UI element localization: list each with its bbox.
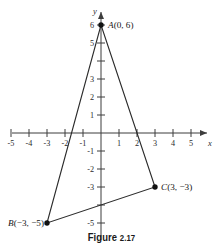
y-tick-label: 1 bbox=[90, 111, 94, 120]
x-tick-label: 3 bbox=[153, 139, 157, 148]
y-tick-label: 5 bbox=[90, 39, 94, 48]
figure-caption-label: Figure bbox=[88, 231, 117, 243]
point-a-dot bbox=[98, 22, 103, 27]
x-tick-label: -3 bbox=[44, 139, 51, 148]
figure-container: -5 -4 -3 -2 -1 1 2 3 4 5 6 5 3 2 1 -1 -2… bbox=[0, 0, 223, 251]
point-b-label: B(−3, −5) bbox=[8, 218, 44, 228]
point-b-dot bbox=[44, 220, 49, 225]
y-tick-label: 2 bbox=[90, 93, 94, 102]
point-c-label: C(3, −3) bbox=[161, 182, 192, 192]
x-tick-label: -5 bbox=[8, 139, 15, 148]
x-tick-labels: -5 -4 -3 -2 -1 1 2 3 4 5 bbox=[8, 139, 193, 148]
figure-caption: Figure 2.17 bbox=[20, 231, 203, 243]
y-tick-label: 3 bbox=[90, 75, 94, 84]
x-tick-label: -2 bbox=[62, 139, 69, 148]
y-tick-label: -1 bbox=[87, 147, 94, 156]
x-tick-label: -1 bbox=[80, 139, 87, 148]
y-tick-label: 6 bbox=[90, 21, 94, 30]
x-axis-label: x bbox=[207, 138, 212, 148]
y-tick-labels: 6 5 3 2 1 -1 -2 -3 -5 bbox=[87, 21, 94, 228]
y-axis-label: y bbox=[92, 6, 97, 16]
y-axis-arrowhead bbox=[98, 12, 104, 19]
y-tick-label: -5 bbox=[87, 219, 94, 228]
x-tick-label: 2 bbox=[135, 139, 139, 148]
figure-caption-number: 2.17 bbox=[120, 232, 135, 243]
point-a-label: A(0, 6) bbox=[107, 20, 134, 30]
x-axis-arrowhead bbox=[200, 130, 207, 136]
y-tick-label: -3 bbox=[87, 183, 94, 192]
point-a-coords: (0, 6) bbox=[114, 20, 134, 30]
point-c-dot bbox=[152, 184, 157, 189]
x-tick-label: -4 bbox=[26, 139, 33, 148]
x-tick-label: 5 bbox=[189, 139, 193, 148]
x-tick-label: 1 bbox=[117, 139, 121, 148]
coordinate-plane-graph: -5 -4 -3 -2 -1 1 2 3 4 5 6 5 3 2 1 -1 -2… bbox=[0, 0, 223, 251]
point-c-coords: (3, −3) bbox=[167, 182, 192, 192]
y-tick-label: -2 bbox=[87, 165, 94, 174]
x-axis bbox=[12, 130, 207, 136]
x-tick-label: 4 bbox=[171, 139, 175, 148]
point-b-coords: (−3, −5) bbox=[14, 218, 44, 228]
